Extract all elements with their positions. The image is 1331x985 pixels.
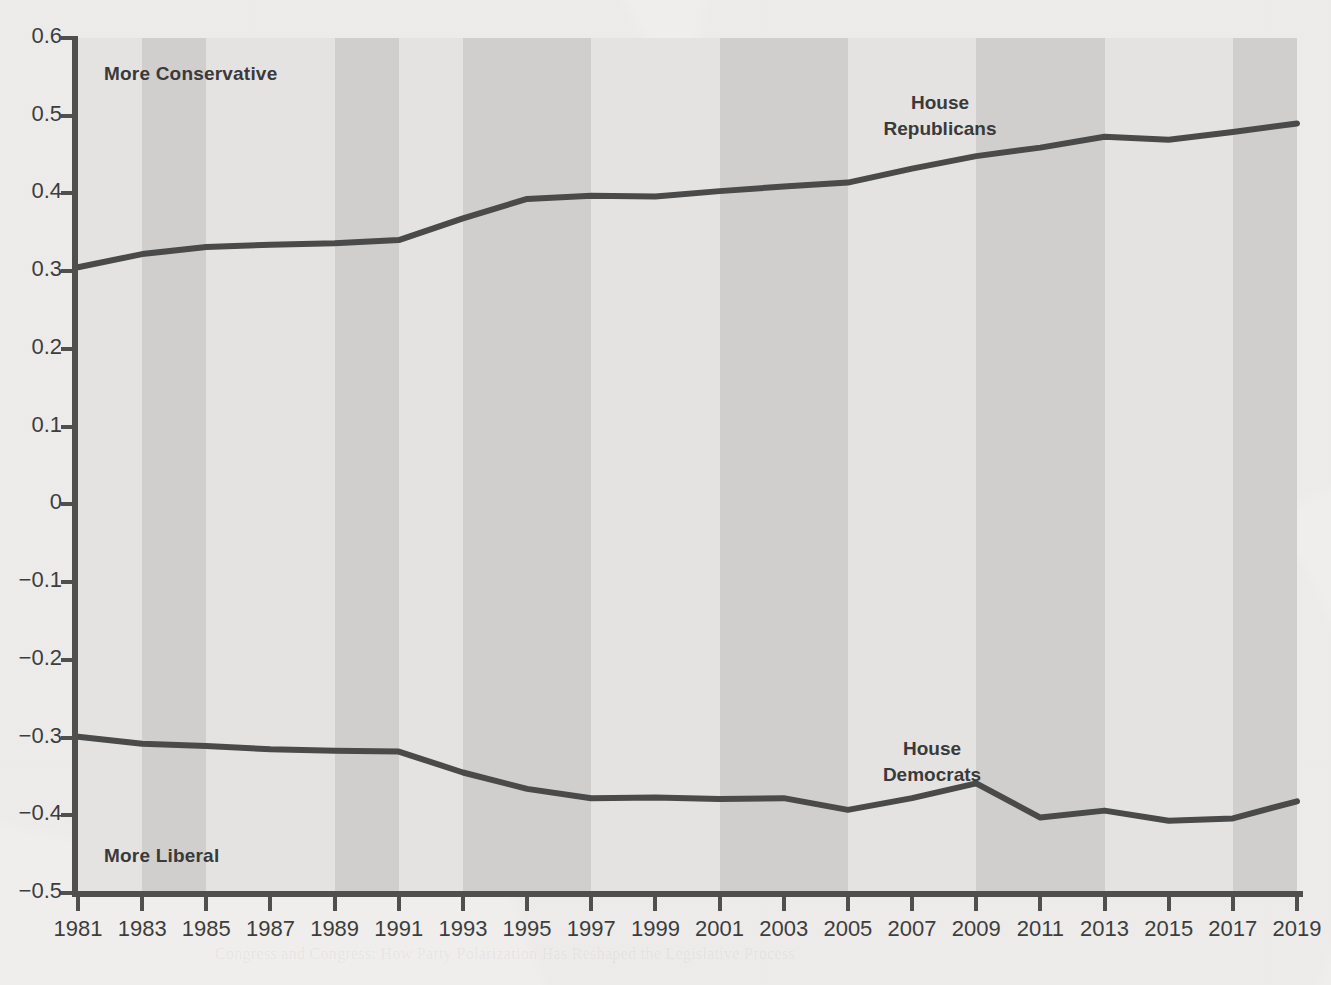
y-axis-tick (61, 191, 72, 195)
house-republicans-line (78, 124, 1297, 268)
x-axis-tick-label: 2009 (952, 916, 1001, 942)
x-axis-tick-label: 2019 (1273, 916, 1322, 942)
x-axis-tick (1167, 897, 1171, 911)
x-axis-tick (974, 897, 978, 911)
x-axis-tick-label: 1991 (374, 916, 423, 942)
figure-page: Polarization and the Politics of Persona… (0, 0, 1331, 985)
y-axis-tick (61, 502, 72, 506)
y-axis-tick (61, 114, 72, 118)
series-lines (78, 38, 1297, 893)
y-axis-tick-label: −0.4 (19, 800, 62, 826)
x-axis-tick (846, 897, 850, 911)
y-axis-tick (61, 813, 72, 817)
x-axis-tick (1295, 897, 1299, 911)
y-axis-tick (61, 425, 72, 429)
series-label-democrats-line1: House (883, 736, 981, 762)
y-axis-tick (61, 269, 72, 273)
y-axis-tick (61, 36, 72, 40)
y-axis-tick-label: 0 (50, 489, 62, 515)
x-axis-tick-label: 2005 (823, 916, 872, 942)
x-axis-tick (653, 897, 657, 911)
x-axis-tick (718, 897, 722, 911)
x-axis-tick-label: 2013 (1080, 916, 1129, 942)
x-axis-tick (204, 897, 208, 911)
y-axis-tick (61, 658, 72, 662)
x-axis-tick-label: 2001 (695, 916, 744, 942)
x-axis-tick-label: 2003 (759, 916, 808, 942)
x-axis-tick (397, 897, 401, 911)
y-axis-tick-label: −0.3 (19, 723, 62, 749)
x-axis-tick-label: 1993 (438, 916, 487, 942)
series-label-house-democrats: House Democrats (883, 736, 981, 787)
plot-area (78, 38, 1297, 893)
annotation-more-conservative: More Conservative (104, 63, 277, 85)
x-axis-tick (782, 897, 786, 911)
x-axis-tick-label: 1995 (503, 916, 552, 942)
y-axis-tick-label: 0.5 (31, 101, 62, 127)
x-axis-line (72, 891, 1303, 897)
y-axis-tick-label: 0.6 (31, 23, 62, 49)
y-axis-tick-label: 0.1 (31, 412, 62, 438)
x-axis-tick (333, 897, 337, 911)
y-axis-tick-label: −0.2 (19, 645, 62, 671)
x-axis-tick (140, 897, 144, 911)
x-axis-tick-label: 2007 (888, 916, 937, 942)
y-axis-tick-label: 0.3 (31, 256, 62, 282)
x-axis-tick-label: 1983 (118, 916, 167, 942)
x-axis-tick-label: 1997 (567, 916, 616, 942)
series-label-democrats-line2: Democrats (883, 762, 981, 788)
y-axis-tick (61, 347, 72, 351)
y-axis-tick (61, 580, 72, 584)
x-axis-tick-label: 1989 (310, 916, 359, 942)
x-axis-tick (910, 897, 914, 911)
x-axis-tick-label: 2015 (1144, 916, 1193, 942)
annotation-more-liberal: More Liberal (104, 845, 219, 867)
y-axis-tick-label: −0.1 (19, 567, 62, 593)
series-label-republicans-line1: House (884, 90, 997, 116)
x-axis-tick (76, 897, 80, 911)
x-axis-tick (268, 897, 272, 911)
x-axis-tick-label: 2017 (1208, 916, 1257, 942)
series-label-republicans-line2: Republicans (884, 116, 997, 142)
ghost-text-6: Congress and Congress: How Party Polariz… (215, 945, 795, 963)
x-axis-tick-label: 1985 (182, 916, 231, 942)
x-axis-tick (1103, 897, 1107, 911)
x-axis-tick (461, 897, 465, 911)
x-axis-tick (589, 897, 593, 911)
y-axis-tick-label: −0.5 (19, 878, 62, 904)
x-axis-tick (525, 897, 529, 911)
x-axis-tick (1038, 897, 1042, 911)
series-label-house-republicans: House Republicans (884, 90, 997, 141)
x-axis-tick-label: 1987 (246, 916, 295, 942)
x-axis-tick-label: 2011 (1017, 916, 1064, 942)
house-democrats-line (78, 737, 1297, 821)
x-axis-tick-label: 1999 (631, 916, 680, 942)
y-axis-line (72, 36, 78, 897)
x-axis-tick-label: 1981 (54, 916, 103, 942)
y-axis-tick (61, 736, 72, 740)
y-axis-tick-label: 0.2 (31, 334, 62, 360)
y-axis-tick-label: 0.4 (31, 178, 62, 204)
x-axis-tick (1231, 897, 1235, 911)
y-axis-tick (61, 891, 72, 895)
